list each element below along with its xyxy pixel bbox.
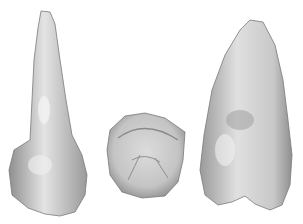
tooth-figure bbox=[0, 0, 303, 224]
lateral-view-tooth bbox=[9, 11, 87, 216]
occlusal-view-tooth bbox=[107, 113, 185, 198]
buccal-view-tooth bbox=[200, 20, 292, 210]
